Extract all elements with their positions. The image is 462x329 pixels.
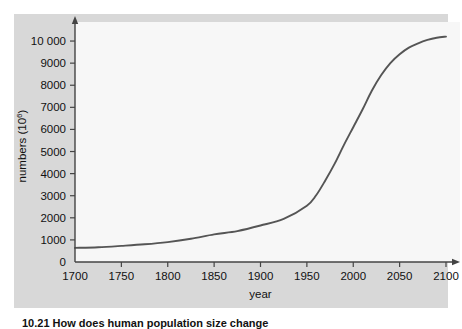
y-axis-label-text: numbers (106)	[15, 109, 28, 182]
y-tick-label: 8000	[40, 79, 66, 91]
y-axis-arrowhead	[72, 16, 78, 24]
x-tick-label: 2000	[340, 270, 366, 282]
y-tick-labels: 010002000300040005000600070008000900010 …	[31, 35, 75, 268]
y-tick-label: 9000	[40, 57, 66, 69]
x-tick-label: 1700	[62, 270, 88, 282]
x-axis-label: year	[249, 288, 272, 300]
figure-container: 170017501800185019001950200020502100 010…	[0, 0, 462, 329]
data-line-group	[75, 37, 446, 248]
x-tick-label: 1950	[294, 270, 320, 282]
y-tick-label: 7000	[40, 101, 66, 113]
y-tick-label: 2000	[40, 212, 66, 224]
x-tick-label: 2050	[387, 270, 413, 282]
figure-caption: 10.21 How does human population size cha…	[22, 317, 268, 329]
x-tick-label: 1900	[248, 270, 274, 282]
x-tick-label: 1750	[109, 270, 135, 282]
y-tick-label: 5000	[40, 146, 66, 158]
population-chart: 170017501800185019001950200020502100 010…	[14, 14, 448, 308]
y-tick-label: 10 000	[31, 35, 66, 47]
y-tick-label: 6000	[40, 123, 66, 135]
x-tick-label: 1800	[155, 270, 181, 282]
x-tick-labels: 170017501800185019001950200020502100	[62, 262, 459, 282]
population-curve	[75, 37, 446, 248]
y-tick-label: 3000	[40, 190, 66, 202]
y-axis-label: numbers (106)	[15, 109, 28, 182]
y-tick-label: 0	[60, 256, 66, 268]
x-tick-label: 2100	[433, 270, 459, 282]
chart-panel: 170017501800185019001950200020502100 010…	[14, 14, 448, 308]
x-tick-label: 1850	[201, 270, 227, 282]
y-tick-label: 4000	[40, 168, 66, 180]
y-tick-label: 1000	[40, 234, 66, 246]
